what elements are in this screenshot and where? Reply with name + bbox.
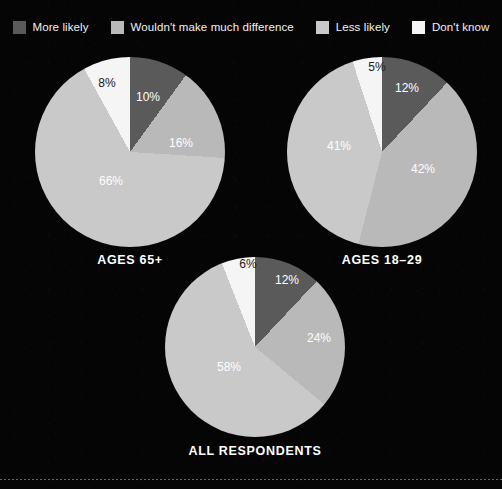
legend-label-more-likely: More likely xyxy=(33,21,89,33)
legend-swatch-less-likely xyxy=(316,21,329,34)
pie-chart-all-respondents: 12% 24% 58% 6% ALL RESPONDENTS xyxy=(165,257,345,462)
pie-ages-18-29-disc xyxy=(287,57,477,247)
legend-label-dont-know: Don't know xyxy=(432,21,490,33)
pie-all-respondents-disc xyxy=(165,257,345,437)
bottom-hairline xyxy=(0,479,502,480)
legend-item-more-likely: More likely xyxy=(13,21,89,34)
pie-ages-65-plus-disc xyxy=(35,57,225,247)
legend-item-dont-know: Don't know xyxy=(412,21,490,34)
legend-swatch-dont-know xyxy=(412,21,425,34)
pie-chart-ages-18-29: 12% 42% 41% 5% AGES 18–29 xyxy=(287,57,477,272)
pie-caption-ages-65-plus: AGES 65+ xyxy=(97,253,163,267)
legend-swatch-more-likely xyxy=(13,21,26,34)
legend-item-less-likely: Less likely xyxy=(316,21,390,34)
legend-item-no-difference: Wouldn't make much difference xyxy=(111,21,294,34)
pie-caption-all-respondents: ALL RESPONDENTS xyxy=(188,444,321,458)
legend-swatch-no-difference xyxy=(111,21,124,34)
legend-label-no-difference: Wouldn't make much difference xyxy=(131,21,294,33)
legend-label-less-likely: Less likely xyxy=(336,21,390,33)
pie-caption-ages-18-29: AGES 18–29 xyxy=(342,253,423,267)
legend: More likely Wouldn't make much differenc… xyxy=(0,16,502,38)
pie-chart-ages-65-plus: 10% 16% 66% 8% AGES 65+ xyxy=(35,57,225,272)
